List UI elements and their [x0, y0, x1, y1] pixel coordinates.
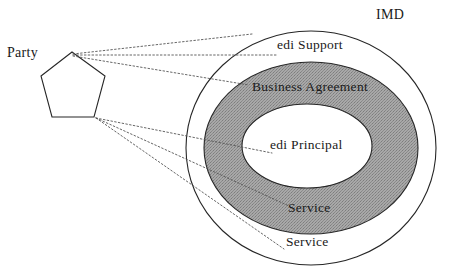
- imd-diagram-graphic: [0, 0, 454, 279]
- party-pentagon: [41, 52, 105, 117]
- label-edi-principal: edi Principal: [270, 138, 343, 152]
- diagram-title-imd: IMD: [376, 8, 404, 22]
- label-service-edi-support: Service: [286, 235, 329, 249]
- label-business-agreement: Business Agreement: [252, 80, 368, 94]
- label-party: Party: [7, 46, 38, 60]
- label-service-business-agreement: Service: [288, 201, 331, 215]
- label-edi-support: edi Support: [277, 38, 343, 52]
- connector-apex-to-outer-top: [73, 34, 252, 54]
- diagram-canvas: IMD Party edi Support Business Agreement…: [0, 0, 454, 279]
